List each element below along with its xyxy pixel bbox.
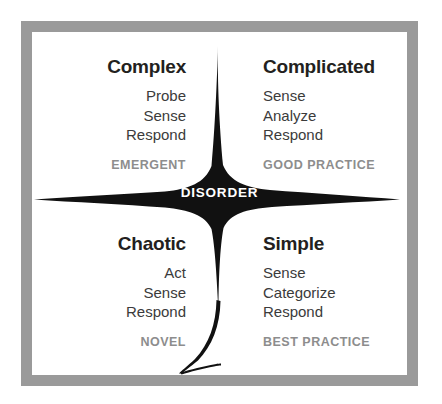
quadrant-complicated-step: Analyze [263,106,407,126]
quadrant-simple-practice: BEST PRACTICE [263,335,407,349]
quadrant-complicated: Complicated Sense Analyze Respond GOOD P… [263,56,407,172]
quadrant-simple-steps: Sense Categorize Respond [263,263,407,322]
quadrant-complicated-step: Respond [263,125,407,145]
quadrant-chaotic: Chaotic Act Sense Respond NOVEL [36,233,186,349]
quadrant-complex-step: Respond [36,125,186,145]
diagram-canvas: DISORDER Complex Probe Sense Respond EME… [32,32,407,375]
quadrant-complex-step: Sense [36,106,186,126]
quadrant-complex-step: Probe [36,86,186,106]
quadrant-complex: Complex Probe Sense Respond EMERGENT [36,56,186,172]
quadrant-complicated-title: Complicated [263,56,407,78]
quadrant-complex-practice: EMERGENT [36,158,186,172]
quadrant-simple: Simple Sense Categorize Respond BEST PRA… [263,233,407,349]
quadrant-complicated-practice: GOOD PRACTICE [263,158,407,172]
quadrant-simple-step: Respond [263,302,407,322]
quadrant-complex-title: Complex [36,56,186,78]
quadrant-chaotic-step: Respond [36,302,186,322]
quadrant-complicated-steps: Sense Analyze Respond [263,86,407,145]
quadrant-chaotic-step: Sense [36,283,186,303]
quadrant-chaotic-title: Chaotic [36,233,186,255]
quadrant-chaotic-step: Act [36,263,186,283]
quadrant-complicated-step: Sense [263,86,407,106]
quadrant-simple-step: Sense [263,263,407,283]
quadrant-chaotic-practice: NOVEL [36,335,186,349]
quadrant-complex-steps: Probe Sense Respond [36,86,186,145]
disorder-center-label: DISORDER [32,185,407,200]
quadrant-simple-title: Simple [263,233,407,255]
quadrant-chaotic-steps: Act Sense Respond [36,263,186,322]
cynefin-framework-diagram: DISORDER Complex Probe Sense Respond EME… [0,0,442,404]
quadrant-simple-step: Categorize [263,283,407,303]
